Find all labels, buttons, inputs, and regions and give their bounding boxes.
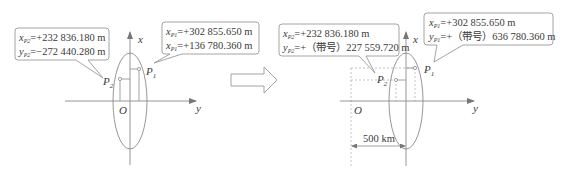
right-offset-label: 500 km	[363, 133, 395, 144]
left-p1-point	[137, 67, 140, 70]
left-callout-p1: xP1=+302 855.650 m xP1=+136 780.360 m	[154, 22, 259, 63]
right-p2-x-text: xP2=+232 836.180 m	[282, 28, 369, 40]
left-y-axis-label: y	[195, 102, 201, 114]
right-p1-label: P1	[423, 63, 434, 78]
left-x-axis-label: x	[137, 33, 143, 45]
left-callout-p2: xP2=+232 836.180 m yP2=−272 440.280 m	[15, 28, 109, 78]
right-y-axis-label: y	[472, 102, 478, 114]
right-p2-y-text: yP2=+（带号）227 559.720 m	[282, 42, 409, 54]
left-panel: x y O P1 P2 xP2=+232 836.180 m yP2=−272 …	[15, 22, 259, 165]
left-p2-y-text: yP2=−272 440.280 m	[18, 46, 105, 58]
left-p2-point	[118, 77, 121, 80]
right-p2-label: P2	[376, 73, 388, 88]
left-p2-label: P2	[102, 75, 114, 90]
right-origin-label: O	[354, 104, 362, 116]
left-p1-label: P1	[145, 65, 156, 80]
right-callout-p2: xP2=+232 836.180 m yP2=+（带号）227 559.720 …	[279, 24, 409, 73]
right-p1-y-text: yP1=+（带号）636 780.360 m	[428, 31, 555, 43]
left-origin-label: O	[119, 104, 127, 116]
right-callout-p1: xP1=+302 855.650 m yP1=+（带号）636 780.360 …	[424, 13, 555, 62]
left-p1-x-text: xP1=+302 855.650 m	[165, 26, 252, 38]
left-p1-y-text: xP1=+136 780.360 m	[165, 40, 252, 52]
right-p2-point	[394, 78, 397, 81]
coordinate-transform-diagram: x y O P1 P2 xP2=+232 836.180 m yP2=−272 …	[0, 0, 567, 178]
right-p1-x-text: xP1=+302 855.650 m	[428, 17, 515, 29]
right-x-axis-label: x	[412, 33, 418, 45]
right-p1-point	[413, 66, 416, 69]
right-arrow-icon	[231, 67, 277, 93]
right-panel: 500 km x y O P1 P2 xP2=+232 836.180 m yP…	[279, 13, 555, 168]
left-p2-x-text: xP2=+232 836.180 m	[18, 32, 105, 44]
